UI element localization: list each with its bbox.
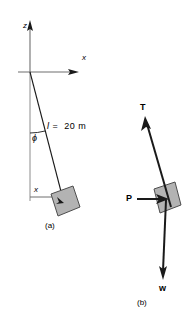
x-axis-label: x	[82, 54, 86, 62]
weight-vector-label: w	[159, 284, 166, 293]
panel-b-group	[137, 116, 181, 280]
tension-vector-label: T	[140, 103, 146, 112]
pendulum-length-symbol: l	[47, 121, 50, 131]
panel-a-caption: (a)	[45, 222, 55, 230]
applied-force-vector-label: P	[126, 194, 132, 203]
pendulum-length-label: l = 20 m	[47, 122, 86, 131]
figure-drawing	[0, 0, 190, 312]
tension-arrowhead-icon	[141, 116, 151, 131]
z-axis-label: z	[23, 22, 27, 30]
pendulum-length-value: = 20 m	[53, 121, 87, 131]
pendulum-block-shape	[51, 186, 80, 216]
panel-a-group	[18, 20, 80, 216]
angle-phi-label: ϕ	[32, 134, 37, 143]
panel-b-caption: (b)	[137, 299, 147, 307]
displacement-x-label: x	[34, 186, 38, 194]
figure-container: z x l = 20 m ϕ x (a) T P w (b)	[0, 0, 190, 312]
